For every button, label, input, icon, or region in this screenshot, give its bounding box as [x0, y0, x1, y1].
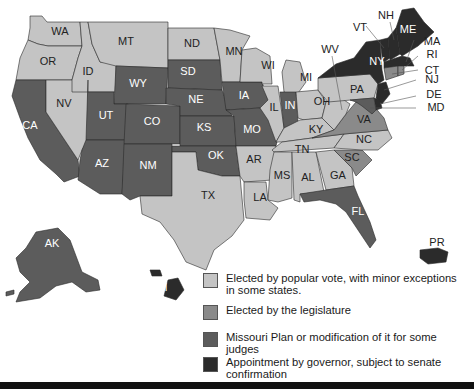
label-ut: UT	[99, 109, 114, 121]
label-ks: KS	[197, 121, 212, 133]
legend-item-appointment: Appointment by governor, subject to sena…	[203, 356, 466, 380]
label-nd: ND	[184, 37, 200, 49]
label-ky: KY	[309, 123, 324, 135]
label-wv: WV	[321, 43, 339, 55]
label-nh: NH	[378, 9, 394, 21]
label-de: DE	[426, 88, 441, 100]
legend-label-popular-vote: Elected by popular vote, with minor exce…	[226, 272, 466, 296]
legend-item-popular-vote: Elected by popular vote, with minor exce…	[203, 272, 466, 296]
label-in: IN	[285, 99, 296, 111]
label-al: AL	[301, 171, 314, 183]
state-ak-islands	[6, 290, 14, 296]
legend-label-legislature: Elected by the legislature	[226, 304, 466, 316]
label-wi: WI	[261, 59, 274, 71]
label-mo: MO	[243, 123, 261, 135]
label-nv: NV	[56, 97, 72, 109]
swatch-legislature	[203, 305, 218, 320]
label-ca: CA	[22, 119, 38, 131]
state-fl[interactable]	[300, 186, 376, 248]
label-ok: OK	[208, 149, 225, 161]
swatch-missouri-plan	[203, 332, 218, 347]
label-ga: GA	[330, 169, 347, 181]
label-hi: HI	[157, 281, 168, 293]
label-nm: NM	[139, 159, 156, 171]
bottom-border	[0, 382, 474, 389]
label-ak: AK	[45, 237, 60, 249]
label-ar: AR	[246, 153, 261, 165]
swatch-popular-vote	[203, 273, 218, 288]
label-nj: NJ	[425, 73, 438, 85]
legend-item-legislature: Elected by the legislature	[203, 304, 466, 320]
label-ri: RI	[427, 48, 438, 60]
label-mi: MI	[300, 71, 312, 83]
label-ms: MS	[274, 169, 291, 181]
label-md: MD	[427, 101, 444, 113]
label-co: CO	[144, 115, 161, 127]
label-me: ME	[400, 23, 417, 35]
label-va: VA	[357, 113, 372, 125]
legend-item-missouri-plan: Missouri Plan or modification of it for …	[203, 331, 466, 355]
label-pr: PR	[429, 236, 444, 248]
label-fl: FL	[352, 205, 365, 217]
label-az: AZ	[95, 157, 109, 169]
label-wy: WY	[129, 77, 147, 89]
legend-label-appointment: Appointment by governor, subject to sena…	[226, 356, 466, 380]
state-pr[interactable]	[420, 248, 448, 264]
label-pa: PA	[350, 83, 365, 95]
label-la: LA	[253, 191, 267, 203]
label-sd: SD	[180, 65, 195, 77]
label-il: IL	[269, 101, 278, 113]
label-mt: MT	[118, 35, 134, 47]
label-ma: MA	[424, 35, 441, 47]
label-or: OR	[40, 55, 57, 67]
label-mn: MN	[225, 45, 242, 57]
legend-label-missouri-plan: Missouri Plan or modification of it for …	[226, 331, 466, 355]
state-ct[interactable]	[384, 66, 398, 80]
label-wa: WA	[51, 25, 69, 37]
state-nm[interactable]	[122, 144, 172, 200]
swatch-appointment	[203, 357, 218, 372]
label-oh: OH	[314, 95, 331, 107]
label-tn: TN	[295, 143, 310, 155]
label-sc: SC	[344, 151, 359, 163]
label-vt: VT	[353, 21, 367, 33]
label-ny: NY	[369, 55, 385, 67]
label-tx: TX	[201, 189, 216, 201]
label-ia: IA	[239, 89, 250, 101]
label-nc: NC	[356, 133, 372, 145]
leader-nj	[384, 80, 416, 90]
label-ne: NE	[188, 93, 203, 105]
state-hi-islands	[150, 270, 162, 276]
state-ri[interactable]	[398, 66, 404, 76]
label-id: ID	[83, 65, 94, 77]
